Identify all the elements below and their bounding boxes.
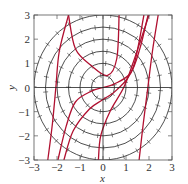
y-axis-label: y xyxy=(5,85,17,91)
slope-tick xyxy=(129,108,133,111)
y-tick-label: −1 xyxy=(18,106,30,118)
slope-tick xyxy=(95,95,98,99)
slope-tick xyxy=(46,43,50,46)
y-tick-label: −3 xyxy=(18,154,30,166)
slope-tick xyxy=(105,61,106,66)
y-tick-label: −2 xyxy=(18,130,30,142)
slope-tick xyxy=(91,79,95,82)
slope-tick xyxy=(95,157,96,162)
slope-tick xyxy=(97,133,98,138)
x-tick-label: −1 xyxy=(74,161,86,173)
x-tick-label: −2 xyxy=(51,161,63,173)
y-tick-label: 0 xyxy=(25,82,31,94)
x-tick-label: 1 xyxy=(123,161,129,173)
slope-tick xyxy=(156,129,160,132)
y-tick-labels: −3−2−10123 xyxy=(18,9,30,166)
slope-tick xyxy=(108,37,109,42)
slope-tick xyxy=(157,44,161,47)
slope-tick xyxy=(55,82,60,83)
slope-tick xyxy=(108,75,111,79)
chart: −3−2−10123 −3−2−10123 x y xyxy=(0,0,188,184)
slope-tick xyxy=(107,49,108,54)
slope-tick xyxy=(95,25,96,30)
slope-tick xyxy=(111,13,112,18)
slope-tick xyxy=(67,37,70,41)
slope-tick xyxy=(100,109,101,114)
x-axis-label: x xyxy=(99,172,105,184)
x-tick-label: 2 xyxy=(146,161,152,173)
y-tick-label: 3 xyxy=(25,9,31,21)
x-tick-label: 3 xyxy=(169,161,175,173)
slope-tick xyxy=(135,36,138,40)
solution-curve-6 xyxy=(69,15,120,76)
y-tick-label: 2 xyxy=(25,33,31,45)
slope-tick xyxy=(109,25,110,30)
slope-tick xyxy=(45,128,49,131)
y-tick-label: 1 xyxy=(25,57,31,69)
